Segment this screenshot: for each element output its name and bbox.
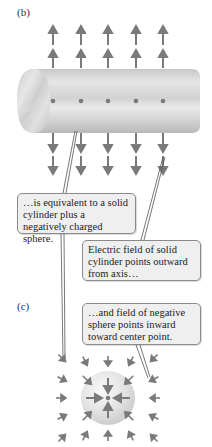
arrow-icon [56,374,68,385]
dot-icon [79,99,84,104]
arrow-icon [132,26,140,68]
arrow-icon [148,352,160,364]
dot-icon [51,99,56,104]
arrow-icon [126,430,137,442]
arrow-icon [56,412,68,423]
dot-icon [134,99,139,104]
callout-cylinder-field: Electric field of solid cylinder points … [82,240,201,281]
arrow-icon [105,431,112,441]
dot-icon [106,396,111,401]
arrow-icon [56,432,68,444]
arrow-icon [148,432,160,444]
arrow-icon [77,26,85,68]
dot-icon [161,99,166,104]
arrow-icon [49,26,57,68]
arrow-icon [159,26,167,68]
arrow-icon [56,395,66,402]
arrow-icon [148,412,160,423]
arrow-icon [49,133,57,174]
upward-arrows [49,26,167,68]
arrow-icon [80,355,91,367]
arrow-icon [104,133,112,174]
arrow-icon [132,133,140,174]
arrow-icon [150,395,160,402]
arrow-icon [77,133,85,174]
arrow-icon [105,356,112,366]
arrow-icon [126,355,137,367]
arrow-icon [80,430,91,442]
arrow-icon [104,26,112,68]
downward-arrows [49,133,167,174]
dot-icon [106,99,111,104]
callout-equivalent: …is equivalent to a solid cylinder plus … [17,193,136,234]
arrow-icon [56,352,68,364]
callout-sphere-field: …and field of negative sphere points inw… [82,303,201,345]
